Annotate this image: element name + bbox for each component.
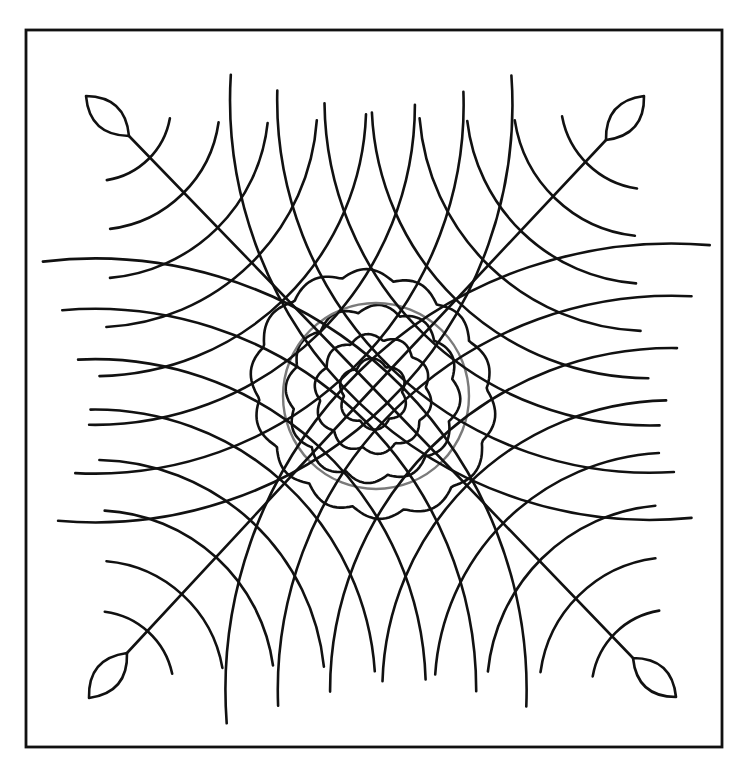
arc-mark xyxy=(593,611,660,677)
arm-top-left xyxy=(58,76,512,523)
leaf-end xyxy=(86,96,129,136)
pattern-canvas xyxy=(0,0,739,772)
arc-mark xyxy=(562,116,637,188)
leaf-end xyxy=(89,653,127,698)
arc-mark xyxy=(541,558,656,672)
arc-mark xyxy=(105,612,172,674)
scalloped-ring xyxy=(315,334,431,454)
arm-bottom-right xyxy=(225,244,709,724)
arc-mark xyxy=(325,103,660,425)
arms xyxy=(43,75,710,724)
leaf-end xyxy=(633,658,676,697)
arc-mark xyxy=(107,118,170,180)
arc-mark xyxy=(420,118,641,331)
scalloped-ring xyxy=(286,305,461,483)
leaf-end xyxy=(606,96,644,140)
arc-mark xyxy=(488,506,655,672)
